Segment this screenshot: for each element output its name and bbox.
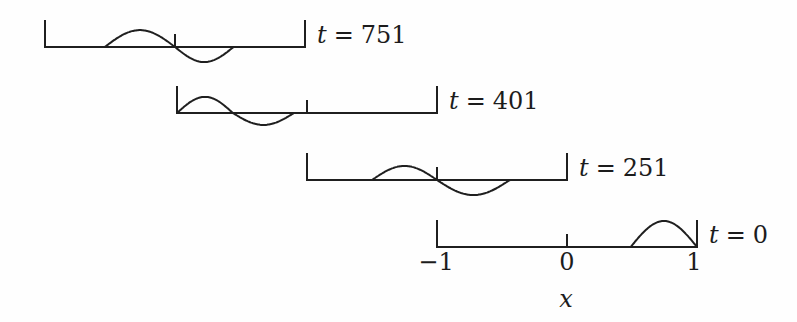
- equals-sign: =: [334, 21, 354, 49]
- time-value: 0: [753, 221, 768, 249]
- equals-sign: =: [726, 221, 746, 249]
- wave-plot: [42, 15, 308, 67]
- time-value: 751: [361, 21, 407, 49]
- time-value: 251: [623, 154, 669, 182]
- time-label: t=0: [709, 222, 768, 248]
- time-symbol: t: [449, 87, 459, 115]
- time-symbol: t: [317, 21, 327, 49]
- figure-wave-propagation: t=751 t=401 t=251 t=0 −1 0 1 x: [0, 0, 797, 322]
- time-label: t=251: [579, 155, 669, 181]
- time-value: 401: [493, 87, 539, 115]
- time-label: t=751: [317, 22, 407, 48]
- x-axis-label: x: [559, 287, 573, 311]
- wave-panel-t401: t=401: [174, 81, 440, 133]
- x-tick-label-neg1: −1: [418, 250, 453, 274]
- x-tick-label-zero: 0: [559, 250, 574, 274]
- time-label: t=401: [449, 88, 539, 114]
- wave-panel-t251: t=251: [304, 148, 570, 200]
- equals-sign: =: [596, 154, 616, 182]
- wave-plot: [174, 81, 440, 133]
- wave-panel-t751: t=751: [42, 15, 308, 67]
- wave-plot: [304, 148, 570, 200]
- time-symbol: t: [579, 154, 589, 182]
- equals-sign: =: [466, 87, 486, 115]
- time-symbol: t: [709, 221, 719, 249]
- x-tick-label-one: 1: [686, 250, 701, 274]
